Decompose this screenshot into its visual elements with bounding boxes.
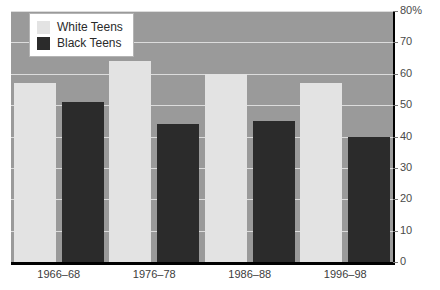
y-tick-mark-20 <box>393 199 398 200</box>
legend-swatch-black-teens <box>37 37 50 50</box>
y-tick-label-10: 10 <box>400 225 412 236</box>
y-tick-mark-70 <box>393 42 398 43</box>
x-tick-label-1966–68: 1966–68 <box>11 268 107 281</box>
y-axis-line <box>393 11 395 265</box>
legend-item-white-teens: White Teens <box>37 19 123 35</box>
y-tick-label-60: 60 <box>400 68 412 79</box>
y-tick-mark-80 <box>393 11 398 12</box>
legend-label-black-teens: Black Teens <box>57 37 121 50</box>
y-tick-label-30: 30 <box>400 162 412 173</box>
y-tick-label-40: 40 <box>400 131 412 142</box>
y-tick-label-70: 70 <box>400 36 412 47</box>
bar-white-teens-1966–68 <box>14 83 56 262</box>
y-tick-mark-30 <box>393 168 398 169</box>
y-tick-mark-60 <box>393 74 398 75</box>
y-tick-mark-50 <box>393 105 398 106</box>
y-tick-mark-40 <box>393 137 398 138</box>
bar-black-teens-1976–78 <box>157 124 199 262</box>
bar-black-teens-1966–68 <box>62 102 104 262</box>
y-tick-label-0: 0 <box>400 256 406 267</box>
x-tick-label-1986–88: 1986–88 <box>202 268 298 281</box>
y-tick-mark-0 <box>393 262 398 263</box>
x-axis-line <box>11 262 393 265</box>
y-tick-label-50: 50 <box>400 99 412 110</box>
legend-swatch-white-teens <box>37 21 50 34</box>
bar-chart: 01020304050607080% 1966–681976–781986–88… <box>0 0 440 290</box>
bar-white-teens-1976–78 <box>109 61 151 262</box>
y-tick-label-80: 80% <box>400 5 422 16</box>
bar-black-teens-1986–88 <box>253 121 295 262</box>
y-tick-mark-10 <box>393 231 398 232</box>
x-tick-label-1996–98: 1996–98 <box>298 268 394 281</box>
x-tick-label-1976–78: 1976–78 <box>107 268 203 281</box>
y-tick-label-20: 20 <box>400 193 412 204</box>
legend-label-white-teens: White Teens <box>57 21 123 34</box>
bar-white-teens-1986–88 <box>205 74 247 262</box>
legend-item-black-teens: Black Teens <box>37 35 123 51</box>
bar-white-teens-1996–98 <box>300 83 342 262</box>
chart-legend: White Teens Black Teens <box>29 13 134 57</box>
bar-black-teens-1996–98 <box>348 137 390 263</box>
